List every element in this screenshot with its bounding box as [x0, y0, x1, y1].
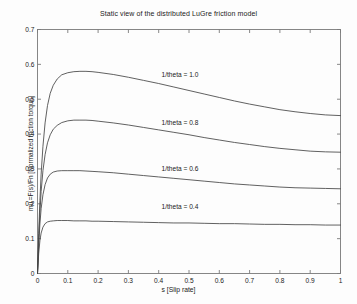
svg-text:1/theta = 0.6: 1/theta = 0.6 — [161, 165, 198, 172]
svg-text:0.3: 0.3 — [124, 277, 133, 284]
svg-text:0.2: 0.2 — [94, 277, 103, 284]
svg-text:0.4: 0.4 — [25, 130, 34, 137]
svg-text:0.5: 0.5 — [184, 277, 193, 284]
svg-text:0.4: 0.4 — [154, 277, 163, 284]
plot-svg: 00.10.20.30.40.50.60.70.80.9100.10.20.30… — [0, 0, 357, 304]
svg-text:0.1: 0.1 — [63, 277, 72, 284]
svg-text:0.6: 0.6 — [215, 277, 224, 284]
svg-text:0.2: 0.2 — [25, 200, 34, 207]
svg-text:0.9: 0.9 — [306, 277, 315, 284]
svg-text:0.5: 0.5 — [25, 96, 34, 103]
x-axis-label: s [Slip rate] — [0, 286, 357, 293]
svg-text:0.8: 0.8 — [275, 277, 284, 284]
figure-canvas: Static view of the distributed LuGre fri… — [0, 0, 357, 304]
axes: 00.10.20.30.40.50.60.70.80.9100.10.20.30… — [25, 26, 342, 284]
svg-text:0.1: 0.1 — [25, 235, 34, 242]
curve-lines — [38, 71, 341, 273]
svg-text:1/theta = 1.0: 1/theta = 1.0 — [161, 71, 198, 78]
svg-text:0.6: 0.6 — [25, 61, 34, 68]
svg-text:1/theta = 0.8: 1/theta = 0.8 — [161, 119, 198, 126]
svg-text:0.7: 0.7 — [245, 277, 254, 284]
svg-text:0.3: 0.3 — [25, 165, 34, 172]
svg-text:1: 1 — [339, 277, 343, 284]
svg-text:1/theta = 0.4: 1/theta = 0.4 — [161, 203, 198, 210]
svg-text:0.7: 0.7 — [25, 26, 34, 33]
svg-text:0: 0 — [31, 270, 35, 277]
svg-text:0: 0 — [36, 277, 40, 284]
